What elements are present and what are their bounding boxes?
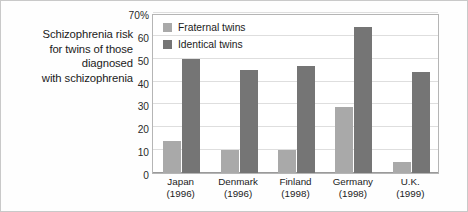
x-axis-category-year: (1996) (209, 188, 266, 200)
y-axis-tick-label: 40 (138, 78, 149, 89)
legend-label: Identical twins (178, 39, 243, 50)
x-axis-tick-label: Japan(1996) (152, 176, 209, 200)
title-line: diagnosed (9, 56, 133, 71)
bar-finland-identical (297, 66, 315, 173)
page-title: Schizophrenia risk for twins of those di… (9, 27, 133, 85)
gridline (153, 12, 438, 13)
x-axis-tick-label: Finland(1998) (267, 176, 324, 200)
bar-denmark-identical (240, 70, 258, 173)
y-axis-tick-label: 20 (138, 124, 149, 135)
legend-item-identical: Identical twins (163, 37, 246, 52)
plot-area: Fraternal twins Identical twins (152, 14, 439, 174)
y-axis-tick-label: 30 (138, 101, 149, 112)
bar-finland-fraternal (278, 150, 296, 173)
y-axis: 010203040506070% (119, 15, 149, 173)
y-axis-tick-label: 70% (129, 10, 149, 21)
x-axis-tick-label: Germany(1998) (324, 176, 381, 200)
bar-japan-identical (182, 59, 200, 173)
bar-uk-fraternal (393, 162, 411, 173)
chart-legend: Fraternal twins Identical twins (163, 20, 246, 54)
x-axis: Japan(1996)Denmark(1996)Finland(1998)Ger… (152, 176, 439, 206)
x-axis-category-name: Germany (324, 176, 381, 188)
bar-germany-identical (354, 27, 372, 173)
x-axis-category-name: Finland (267, 176, 324, 188)
legend-swatch-icon (163, 23, 172, 32)
chart-figure: Schizophrenia risk for twins of those di… (0, 0, 468, 212)
y-axis-tick-label: 60 (138, 32, 149, 43)
x-axis-category-year: (1998) (267, 188, 324, 200)
title-line: Schizophrenia risk (9, 27, 133, 42)
title-line: for twins of those (9, 42, 133, 57)
x-axis-tick-label: U.K.(1999) (382, 176, 439, 200)
y-axis-tick-label: 10 (138, 147, 149, 158)
x-axis-category-name: Denmark (209, 176, 266, 188)
x-axis-category-year: (1999) (382, 188, 439, 200)
x-axis-category-year: (1996) (152, 188, 209, 200)
x-axis-category-year: (1998) (324, 188, 381, 200)
bar-denmark-fraternal (221, 150, 239, 173)
x-axis-tick-label: Denmark(1996) (209, 176, 266, 200)
legend-swatch-icon (163, 40, 172, 49)
legend-item-fraternal: Fraternal twins (163, 20, 246, 35)
x-axis-category-name: U.K. (382, 176, 439, 188)
y-axis-tick-label: 50 (138, 55, 149, 66)
title-line: with schizophrenia (9, 71, 133, 86)
x-axis-category-name: Japan (152, 176, 209, 188)
bar-uk-identical (412, 72, 430, 173)
bar-germany-fraternal (335, 107, 353, 173)
legend-label: Fraternal twins (178, 22, 246, 33)
y-axis-tick-label: 0 (143, 170, 149, 181)
bar-japan-fraternal (163, 141, 181, 173)
